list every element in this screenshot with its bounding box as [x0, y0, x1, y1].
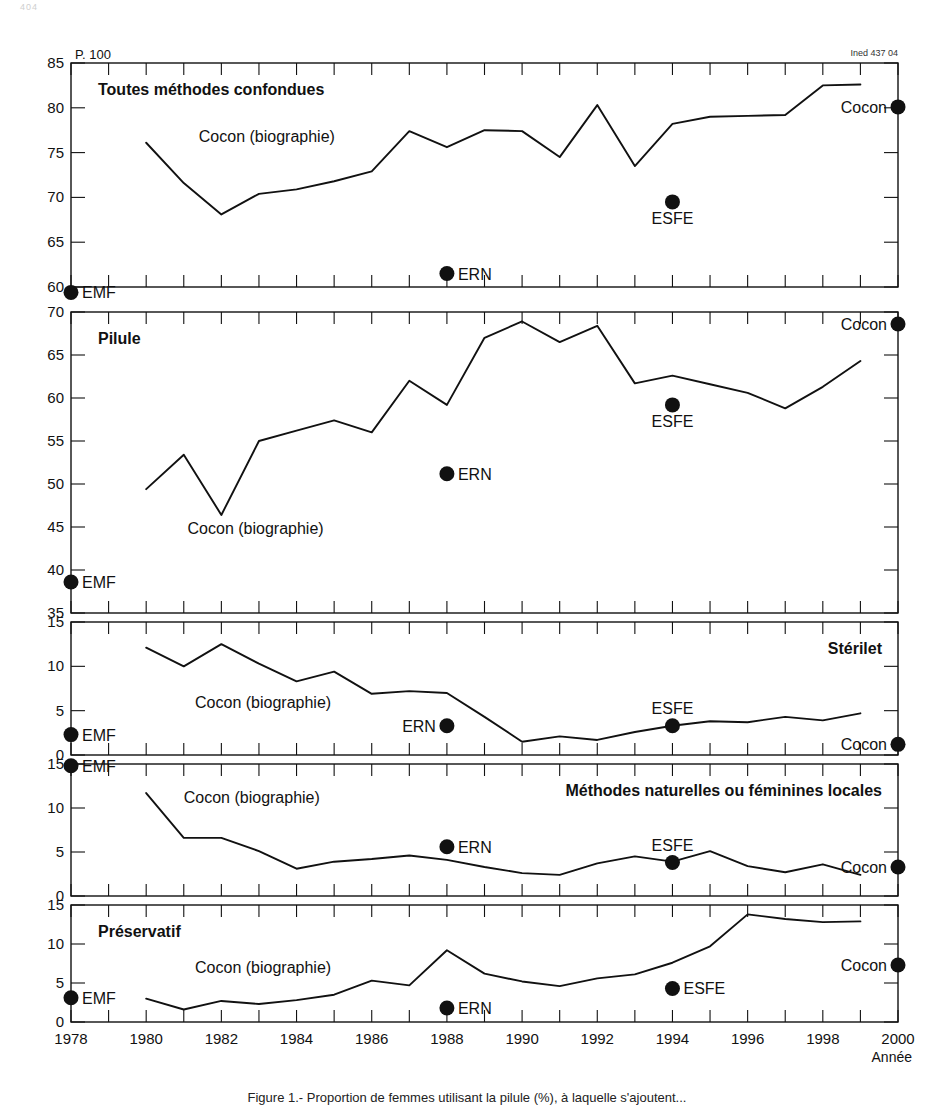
y-tick-label: 5 — [56, 974, 64, 991]
panel-title: Méthodes naturelles ou féminines locales — [565, 782, 882, 799]
survey-point-esfe — [665, 194, 680, 209]
panel-title: Toutes méthodes confondues — [98, 81, 324, 98]
survey-point-label: Cocon — [841, 859, 887, 876]
ined-code: Ined 437 04 — [850, 48, 898, 58]
series-label: Cocon (biographie) — [195, 694, 331, 711]
survey-point-label: Cocon — [841, 99, 887, 116]
y-tick-label: 60 — [47, 278, 64, 295]
x-axis-title: Année — [872, 1049, 913, 1065]
y-tick-label: 10 — [47, 935, 64, 952]
survey-point-ern — [439, 266, 454, 281]
survey-point-label: EMF — [82, 574, 116, 591]
survey-point-ern — [439, 718, 454, 733]
survey-point-label: ESFE — [652, 210, 694, 227]
survey-point-emf — [64, 285, 79, 300]
survey-point-label: ERN — [458, 839, 492, 856]
y-tick-label: 15 — [47, 755, 64, 772]
y-tick-label: 70 — [47, 188, 64, 205]
y-tick-label: 0 — [56, 1013, 64, 1030]
survey-point-label: EMF — [82, 990, 116, 1007]
survey-point-label: ESFE — [683, 980, 725, 997]
y-tick-label: 80 — [47, 99, 64, 116]
survey-point-label: ERN — [402, 718, 436, 735]
x-axis: 1978198019821984198619881990199219941996… — [54, 1030, 914, 1065]
y-tick-label: 85 — [47, 54, 64, 71]
data-line — [146, 85, 860, 215]
survey-point-ern — [439, 1000, 454, 1015]
x-tick-label: 1980 — [129, 1030, 162, 1047]
survey-point-cocon — [891, 737, 906, 752]
y-tick-label: 15 — [47, 613, 64, 630]
x-tick-label: 1978 — [54, 1030, 87, 1047]
survey-point-cocon — [891, 859, 906, 874]
y-tick-label: 5 — [56, 843, 64, 860]
x-tick-label: 1984 — [280, 1030, 313, 1047]
series-label: Cocon (biographie) — [195, 959, 331, 976]
x-tick-label: 1996 — [731, 1030, 764, 1047]
y-tick-label: 65 — [47, 346, 64, 363]
survey-point-emf — [64, 990, 79, 1005]
x-tick-label: 1994 — [656, 1030, 689, 1047]
survey-point-label: ESFE — [652, 413, 694, 430]
x-tick-label: 2000 — [881, 1030, 914, 1047]
panel-1: 606570758085Toutes méthodes confonduesCo… — [47, 54, 905, 301]
x-tick-label: 1986 — [355, 1030, 388, 1047]
survey-point-cocon — [891, 317, 906, 332]
survey-point-esfe — [665, 718, 680, 733]
series-label: Cocon (biographie) — [188, 520, 324, 537]
survey-point-label: ERN — [458, 266, 492, 283]
y-tick-label: 45 — [47, 518, 64, 535]
chart-canvas: P. 100Ined 437 04606570758085Toutes méth… — [0, 0, 934, 1105]
survey-point-esfe — [665, 855, 680, 870]
x-tick-label: 1988 — [430, 1030, 463, 1047]
survey-point-label: Cocon — [841, 736, 887, 753]
x-tick-label: 1982 — [205, 1030, 238, 1047]
figure-caption: Figure 1.- Proportion de femmes utilisan… — [0, 1090, 934, 1105]
survey-point-ern — [439, 466, 454, 481]
survey-point-esfe — [665, 981, 680, 996]
survey-point-emf — [64, 758, 79, 773]
figure-root: 404 P. 100Ined 437 04606570758085Toutes … — [0, 0, 934, 1105]
y-tick-label: 50 — [47, 475, 64, 492]
x-tick-label: 1992 — [581, 1030, 614, 1047]
survey-point-emf — [64, 575, 79, 590]
survey-point-label: ESFE — [652, 700, 694, 717]
panel-title: Stérilet — [828, 640, 883, 657]
survey-point-esfe — [665, 397, 680, 412]
data-line — [146, 321, 860, 515]
survey-point-emf — [64, 727, 79, 742]
panel-title: Préservatif — [98, 923, 181, 940]
panel-frame — [71, 312, 898, 613]
survey-point-label: ERN — [458, 466, 492, 483]
panel-3: 051015StériletCocon (biographie)EMFERNES… — [47, 613, 905, 763]
survey-point-label: EMF — [82, 758, 116, 775]
multi-panel-line-chart: P. 100Ined 437 04606570758085Toutes méth… — [0, 0, 934, 1105]
survey-point-label: Cocon — [841, 316, 887, 333]
y-tick-label: 10 — [47, 799, 64, 816]
survey-point-cocon — [891, 958, 906, 973]
y-tick-label: 10 — [47, 657, 64, 674]
y-tick-label: 40 — [47, 561, 64, 578]
y-tick-label: 65 — [47, 233, 64, 250]
survey-point-label: ESFE — [652, 837, 694, 854]
x-tick-label: 1998 — [806, 1030, 839, 1047]
data-line — [146, 644, 860, 742]
panel-2: 3540455055606570PiluleCocon (biographie)… — [47, 303, 905, 621]
survey-point-label: EMF — [82, 727, 116, 744]
series-label: Cocon (biographie) — [199, 128, 335, 145]
panel-4: 051015Méthodes naturelles ou féminines l… — [47, 755, 905, 904]
y-tick-label: 60 — [47, 389, 64, 406]
survey-point-cocon — [891, 99, 906, 114]
y-tick-label: 70 — [47, 303, 64, 320]
survey-point-label: EMF — [82, 284, 116, 301]
y-tick-label: 5 — [56, 702, 64, 719]
x-tick-label: 1990 — [505, 1030, 538, 1047]
panel-frame — [71, 622, 898, 755]
head-note: P. 100 — [75, 47, 111, 62]
panel-5: 051015PréservatifCocon (biographie)EMFER… — [47, 896, 905, 1030]
panel-title: Pilule — [98, 330, 141, 347]
survey-point-ern — [439, 839, 454, 854]
series-label: Cocon (biographie) — [184, 789, 320, 806]
y-tick-label: 55 — [47, 432, 64, 449]
survey-point-label: ERN — [458, 1000, 492, 1017]
